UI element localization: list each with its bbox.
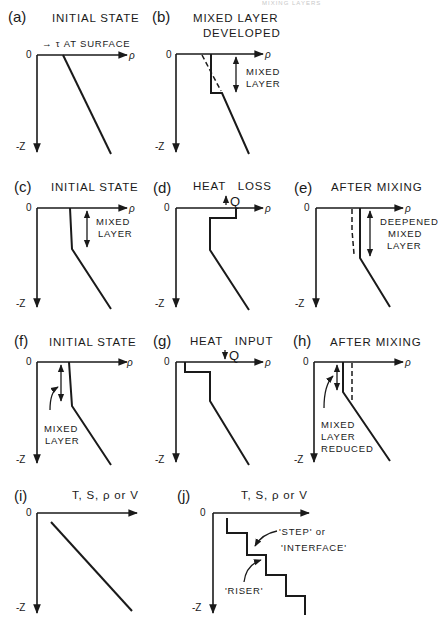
panel-a: (a) INITIAL STATE → τ AT SURFACE 0 ρ -Z [8,8,140,154]
mixed-layer-label-line2: LAYER [98,228,132,239]
panel-e: (e) AFTER MIXING 0 ρ -Z DEEPENED MIXED L… [294,179,438,309]
initial-profile-dashed [352,209,354,254]
panel-title: INITIAL STATE [52,12,140,24]
surface-stress-annotation: → τ AT SURFACE [42,38,131,49]
depth-axis-label: -Z [16,602,25,613]
heat-flux-q-label: Q [230,194,240,209]
panel-title-line2: DEVELOPED [203,27,281,39]
layer-label: LAYER [321,431,355,442]
origin-label: 0 [164,202,170,213]
panel-label: (e) [294,179,312,196]
panel-label: (b) [152,8,170,25]
interface-label: 'INTERFACE' [281,542,347,553]
panel-label: (j) [177,487,190,504]
density-axis-label: ρ [126,357,133,368]
depth-axis-label: -Z [16,141,25,152]
depth-axis-label: -Z [155,141,164,152]
panel-label: (g) [153,332,171,349]
step-pointer-arrow [255,531,277,546]
origin-label: 0 [166,49,172,60]
layer-label: LAYER [387,240,421,251]
panel-label: (d) [153,179,171,196]
origin-label: 0 [164,356,170,367]
depth-axis-label: -Z [16,298,25,309]
density-axis-label: ρ [264,203,271,214]
panel-title: HEAT INPUT [190,335,273,347]
riser-label: 'RISER' [225,585,263,596]
origin-label: 0 [26,507,32,518]
panel-title: T, S, ρ or V [241,489,308,501]
panel-d: (d) HEAT LOSS 0 ρ -Z Q [153,179,272,310]
origin-label: 0 [26,356,32,367]
panel-title: INITIAL STATE [49,336,137,348]
step-label: 'STEP' or [279,526,326,537]
origin-label: 0 [303,356,309,367]
mixed-profile [211,54,249,154]
panel-title: HEAT LOSS [193,180,272,192]
depth-axis-label: -Z [295,298,304,309]
panel-j: (j) T, S, ρ or V 0 -Z 'STEP' or 'INTERFA… [177,487,347,615]
mixing-layer-diagram: (a) INITIAL STATE → τ AT SURFACE 0 ρ -Z … [0,0,438,636]
mixed-layer-label: MIXED [44,423,78,434]
panel-f: (f) INITIAL STATE 0 ρ -Z MIXED LAYER [14,332,137,465]
origin-label: 0 [26,49,32,60]
panel-title: INITIAL STATE [51,181,139,193]
panel-title: MIXED LAYER [193,12,278,24]
density-profile [69,362,111,465]
density-axis-label: ρ [404,203,411,214]
mixed-layer-label-line2: LAYER [45,435,79,446]
depth-axis-label: -Z [16,454,25,465]
density-axis-label: ρ [264,49,271,60]
density-profile [63,55,111,154]
density-axis-label: ρ [264,357,271,368]
density-axis-label: ρ [128,203,135,214]
panel-b: (b) MIXED LAYER DEVELOPED 0 ρ -Z MIXED L… [152,8,281,154]
origin-label: 0 [26,202,32,213]
panel-title: T, S, ρ or V [72,489,139,501]
density-axis-label: ρ [128,50,135,61]
panel-label: (a) [8,8,26,25]
depth-axis-label: -Z [155,298,164,309]
panel-title: AFTER MIXING [331,181,422,193]
density-axis-label: ρ [404,357,411,368]
origin-label: 0 [304,202,310,213]
depth-axis-label: -Z [192,602,201,613]
mixed-layer-label: MIXED [246,66,280,77]
mixed-layer-label: MIXED [96,216,130,227]
origin-label: 0 [200,507,206,518]
density-profile [210,208,249,310]
panel-label: (i) [14,487,27,504]
linear-profile [51,522,132,611]
depth-axis-label: -Z [294,454,303,465]
panel-g: (g) HEAT INPUT 0 ρ -Z Q [153,332,273,465]
density-profile [185,362,249,465]
mixed-label: MIXED [321,419,355,430]
reduced-label: REDUCED [321,443,374,454]
mixed-label: MIXED [388,228,422,239]
pointer-arrow [50,387,58,410]
panel-c: (c) INITIAL STATE 0 ρ -Z MIXED LAYER [14,178,139,309]
panel-title: AFTER MIXING [330,336,421,348]
heat-flux-q-label: Q [229,348,239,363]
panel-label: (f) [14,332,28,349]
pointer-arrow [324,376,333,408]
mixed-layer-label-line2: LAYER [246,78,280,89]
deepened-label: DEEPENED [380,216,438,227]
riser-pointer-arrow [244,560,261,582]
panel-label: (h) [293,332,311,349]
panel-i: (i) T, S, ρ or V 0 -Z [14,487,139,613]
depth-axis-label: -Z [155,454,164,465]
panel-h: (h) AFTER MIXING 0 ρ -Z MIXED LAYER REDU… [293,332,421,465]
panel-label: (c) [14,178,32,195]
